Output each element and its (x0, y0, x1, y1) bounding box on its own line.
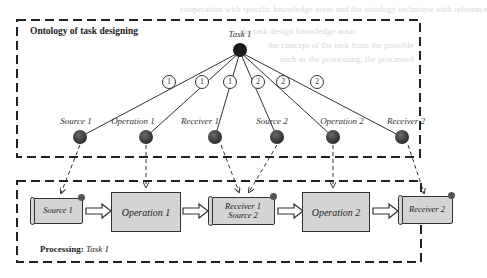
processing-title: Processing: Task 1 (40, 244, 109, 254)
task-root-node (233, 43, 247, 57)
step-receiver-1-source-2: Receiver 1 Source 2 (211, 197, 275, 225)
step-receiver-2: Receiver 2 (401, 196, 453, 224)
step-label-line2: Source 2 (228, 211, 258, 220)
edge-label-1: 1 (167, 77, 171, 86)
node-label-operation-2: Operation 2 (320, 116, 364, 126)
step-source-1: Source 1 (33, 198, 83, 224)
edge-label-5: 2 (281, 77, 285, 86)
processing-title-task: Task 1 (86, 244, 109, 254)
edge-label-4: 2 (256, 77, 260, 86)
edge-label-6: 2 (315, 77, 319, 86)
step-label: Operation 2 (312, 207, 361, 218)
step-label: Receiver 2 (409, 205, 445, 214)
step-label: Source 1 (43, 206, 73, 215)
step-operation-1: Operation 1 (111, 192, 181, 232)
ontology-title: Ontology of task designing (30, 26, 138, 36)
edge-label-3: 1 (228, 77, 232, 86)
node-label-receiver-1: Receiver 1 (181, 116, 219, 126)
step-operation-2: Operation 2 (302, 192, 370, 232)
mapping-arrows (61, 145, 424, 193)
edge-label-2: 1 (200, 77, 204, 86)
node-label-source-1: Source 1 (60, 116, 91, 126)
step-label: Operation 1 (122, 207, 171, 218)
edge-labels (163, 76, 324, 89)
node-label-receiver-2: Receiver 2 (387, 116, 425, 126)
node-label-operation-1: Operation 1 (111, 116, 155, 126)
task-root-label: Task 1 (229, 29, 252, 39)
processing-title-bold: Processing: (40, 244, 84, 254)
node-label-source-2: Source 2 (256, 116, 287, 126)
ontology-nodes (73, 130, 409, 144)
